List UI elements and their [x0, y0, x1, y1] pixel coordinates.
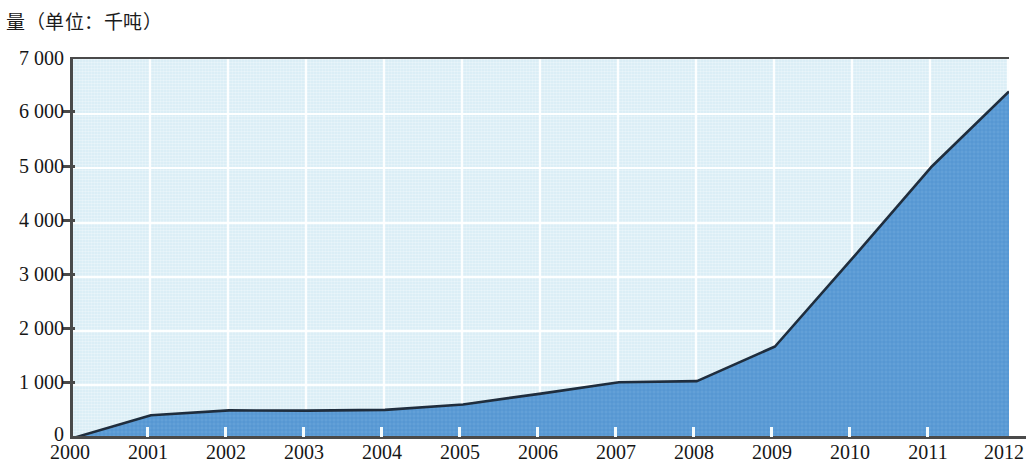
- y-axis-label: 6 000: [19, 100, 64, 123]
- x-axis-label: 2010: [830, 441, 870, 463]
- y-axis-tick: [63, 219, 75, 222]
- x-axis-tick: [302, 427, 305, 437]
- x-axis-label: 2002: [206, 441, 246, 463]
- x-axis-tick: [848, 427, 851, 437]
- x-axis-label: 2008: [674, 441, 714, 463]
- y-axis-tick: [63, 381, 75, 384]
- x-axis-tick: [380, 427, 383, 437]
- y-axis-tick: [63, 273, 75, 276]
- x-axis-tick: [926, 427, 929, 437]
- chart-axis-title: 量（单位：千吨）: [6, 7, 162, 34]
- x-axis-label: 2006: [518, 441, 558, 463]
- x-axis-tick: [146, 427, 149, 437]
- y-axis-label: 5 000: [19, 155, 64, 178]
- x-axis-line: [70, 436, 1026, 439]
- y-axis-label: 2 000: [19, 317, 64, 340]
- x-axis-tick: [536, 427, 539, 437]
- x-axis-tick: [692, 427, 695, 437]
- x-axis-tick: [458, 427, 461, 437]
- area-fill: [73, 91, 1009, 438]
- x-axis-label: 2004: [362, 441, 402, 463]
- area-series-plot: [73, 59, 1009, 438]
- y-axis-tick: [63, 165, 75, 168]
- y-axis-label: 3 000: [19, 263, 64, 286]
- x-axis-tick: [770, 427, 773, 437]
- x-axis-tick: [224, 427, 227, 437]
- x-axis-label: 2009: [752, 441, 792, 463]
- y-axis-label: 4 000: [19, 209, 64, 232]
- y-axis-label: 7 000: [19, 47, 64, 70]
- x-axis-label: 2007: [596, 441, 636, 463]
- area-chart: 量（单位：千吨）: [0, 0, 1026, 463]
- x-axis-tick: [614, 427, 617, 437]
- x-axis-label: 2005: [440, 441, 480, 463]
- x-axis-label: 2012: [984, 441, 1024, 463]
- x-axis-label: 2001: [128, 441, 168, 463]
- x-axis-label: 2011: [908, 441, 947, 463]
- plot-area: [70, 57, 1009, 438]
- y-axis-tick: [63, 327, 75, 330]
- plot-inner: [73, 59, 1009, 438]
- y-axis-tick: [63, 110, 75, 113]
- x-axis-label: 2000: [50, 441, 90, 463]
- y-axis-label: 1 000: [19, 371, 64, 394]
- x-axis-label: 2003: [284, 441, 324, 463]
